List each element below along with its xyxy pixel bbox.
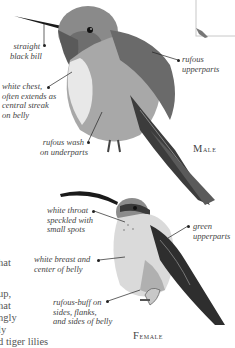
caption-male: Male (193, 143, 216, 154)
range-map-frame (196, 0, 235, 36)
label-line: upperparts (193, 232, 230, 242)
leader-dot (43, 44, 46, 47)
label-rufous-wash: rufous wash on underparts (40, 138, 84, 157)
leader-dot (97, 259, 100, 262)
label-rufous-buff: rufous-buff on sides, flanks, and sides … (53, 298, 112, 327)
leader-dot (87, 141, 90, 144)
label-line: center of belly (34, 265, 90, 275)
label-line: upperparts (182, 65, 219, 75)
body-text-fragment: hat (0, 256, 11, 269)
label-line: small spots (47, 225, 93, 235)
label-line: on underparts (40, 148, 84, 158)
label-white-chest: white chest, often extends as central st… (2, 82, 56, 120)
leader-dot (177, 59, 180, 62)
label-straight-black-bill: straight black bill (10, 42, 40, 61)
label-rufous-upperparts: rufous upperparts (182, 55, 219, 74)
caption-female: Female (133, 330, 163, 341)
label-green-upperparts: green upperparts (193, 222, 230, 241)
label-line: black bill (10, 52, 40, 62)
body-text-fragment: d tiger lilies (0, 335, 48, 348)
label-white-breast: white breast and center of belly (34, 255, 90, 274)
label-white-throat: white throat speckled with small spots (47, 206, 93, 235)
leader-dot (187, 225, 190, 228)
label-line: on belly (2, 111, 56, 121)
label-line: and sides of belly (53, 317, 112, 327)
